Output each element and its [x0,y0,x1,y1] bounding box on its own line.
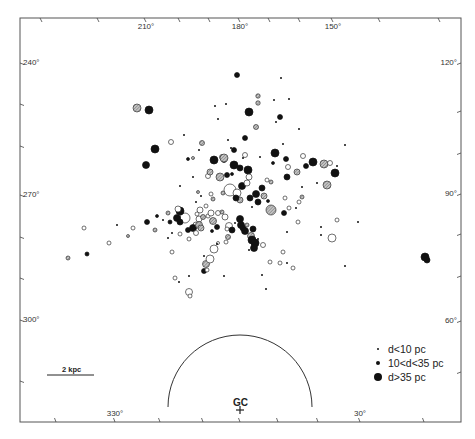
cluster-point-open [216,211,221,216]
cluster-point-open [170,250,174,254]
cluster-point-solid [168,220,172,224]
tick-mark [457,194,461,196]
tick-mark [457,153,461,155]
cluster-point-solid [271,149,279,157]
cluster-point-hatched [220,154,228,162]
cluster-point-open [195,212,199,216]
cluster-point-solid [178,281,180,283]
cluster-point-solid [215,225,220,230]
cluster-point-hatched [133,104,141,112]
tick-mark [239,418,241,422]
cluster-point-solid [255,199,261,205]
cluster-point-solid [278,115,283,120]
cluster-point-open [286,165,291,170]
cluster-point-solid [301,186,303,188]
tick-mark [202,418,204,422]
cluster-point-solid [248,249,250,251]
cluster-point-solid [250,226,256,232]
cluster-point-hatched [261,193,267,199]
cluster-point-hatched [211,197,215,201]
longitude-label: 30° [354,409,366,418]
cluster-point-solid [183,134,185,136]
longitude-label: 120° [440,58,457,67]
cluster-point-solid [280,77,282,79]
longitude-label: 210° [138,22,155,31]
tick-mark [457,276,461,278]
cluster-point-open [178,232,182,236]
tick-mark [298,18,300,22]
cluster-point-solid [288,98,290,100]
longitude-label: 300° [23,315,40,324]
tick-mark [114,418,116,422]
cluster-point-solid [227,139,229,141]
cluster-point-hatched [66,256,70,260]
scale-bar-label: 2 kpc [62,365,81,374]
cluster-point-solid [225,173,230,178]
longitude-label: 150° [325,22,342,31]
cluster-point-solid [284,174,290,180]
cluster-point-solid [234,222,236,224]
cluster-point-open [297,200,301,204]
cluster-point-solid [267,200,270,203]
tick-mark [97,18,99,22]
tick-mark [20,381,24,383]
cluster-point-hatched [323,181,331,189]
legend-label-medium: 10<d<35 pc [388,357,443,369]
cluster-point-solid [233,195,239,201]
galactic-cluster-map: 210°180°150°330°30°240°270°300°120°90°60… [0,0,475,439]
cluster-point-solid [357,221,359,223]
cluster-point-open [283,196,287,200]
cluster-point-hatched [198,225,204,231]
tick-mark [423,418,425,422]
cluster-point-solid [231,173,234,176]
cluster-point-hatched [210,218,217,225]
tick-mark [20,104,24,106]
cluster-point-open [301,154,306,159]
cluster-point-solid [336,165,338,167]
cluster-point-solid [286,231,288,233]
tick-mark [20,278,24,280]
cluster-point-solid [200,195,202,197]
cluster-point-solid [145,106,153,114]
scale-bar: 2 kpc [47,365,94,375]
cluster-point-open [205,268,209,272]
cluster-point-solid [304,164,309,169]
cluster-point-solid [424,257,430,263]
cluster-point-solid [198,149,200,151]
tick-mark [20,146,24,148]
longitude-label: 330° [107,409,124,418]
legend: d<10 pc 10<d<35 pc d>35 pc [374,343,443,383]
cluster-point-solid [257,238,259,240]
cluster-point-solid [331,169,339,177]
cluster-point-hatched [269,180,273,184]
cluster-point-solid [167,237,169,239]
cluster-point-hatched [254,125,259,130]
cluster-point-solid [298,128,300,130]
cluster-point-solid [229,227,235,233]
cluster-point-solid [316,182,318,184]
cluster-point-solid [210,156,218,164]
longitude-label: 180° [232,22,249,31]
cluster-point-open [281,250,285,254]
cluster-point-open [206,255,214,263]
cluster-point-solid [282,143,284,145]
cluster-point-solid [143,162,150,169]
tick-mark [208,18,210,22]
legend-marker-tiny-icon [377,348,379,350]
longitude-label: 60° [445,316,457,325]
cluster-point-open [107,241,111,245]
cluster-point-solid [214,105,216,107]
tick-mark [268,18,270,22]
cluster-point-solid [251,206,253,208]
cluster-points [66,73,430,299]
cluster-point-solid [244,166,252,174]
cluster-point-solid [247,195,253,201]
cluster-point-open [278,261,282,265]
cluster-point-solid [282,211,287,216]
cluster-point-open [265,178,269,182]
cluster-point-solid [85,252,89,256]
cluster-point-solid [309,158,317,166]
cluster-point-hatched [216,173,224,181]
cluster-point-solid [259,185,265,191]
cluster-point-open [287,206,291,210]
